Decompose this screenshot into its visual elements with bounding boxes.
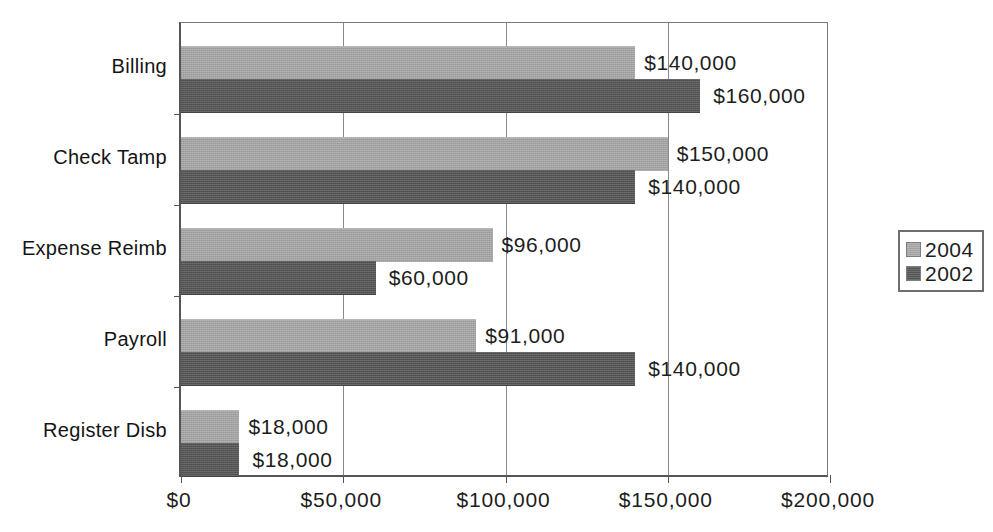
x-axis-tick xyxy=(830,475,831,483)
category-row: $150,000$140,000 xyxy=(181,114,827,205)
category-row: $140,000$160,000 xyxy=(181,23,827,114)
x-axis-tick xyxy=(343,475,344,483)
bar-payroll-2004: $91,000 xyxy=(181,319,476,352)
bar-expense-reimb-2002: $60,000 xyxy=(181,261,376,294)
legend-label-2002: 2002 xyxy=(925,263,974,284)
bar-value-label: $140,000 xyxy=(644,51,736,75)
bar-payroll-2002: $140,000 xyxy=(181,352,635,385)
bar-check-tamp-2002: $140,000 xyxy=(181,170,635,203)
legend-swatch-icon-2004 xyxy=(906,242,921,257)
bar-value-label: $18,000 xyxy=(252,448,332,472)
category-label-register-disb: Register Disb xyxy=(0,419,167,442)
legend-label-2004: 2004 xyxy=(925,239,974,260)
x-axis-tick-label: $200,000 xyxy=(781,488,875,512)
bar-value-label: $160,000 xyxy=(713,84,805,108)
category-row: $96,000$60,000 xyxy=(181,205,827,296)
bar-value-label: $140,000 xyxy=(648,175,740,199)
bar-register-disb-2002: $18,000 xyxy=(181,443,239,476)
category-row: $18,000$18,000 xyxy=(181,387,827,478)
bar-fill xyxy=(181,443,239,477)
bar-fill xyxy=(181,170,635,204)
bar-fill xyxy=(181,319,476,353)
x-axis-tick xyxy=(181,475,182,483)
x-axis-tick xyxy=(668,475,669,483)
bar-check-tamp-2004: $150,000 xyxy=(181,137,668,170)
bar-billing-2002: $160,000 xyxy=(181,79,700,112)
bar-billing-2004: $140,000 xyxy=(181,46,635,79)
legend-swatch-icon-2002 xyxy=(906,266,921,281)
bar-fill xyxy=(181,137,668,171)
bar-fill xyxy=(181,228,493,262)
category-label-billing: Billing xyxy=(0,55,167,78)
bar-value-label: $91,000 xyxy=(485,324,565,348)
bar-value-label: $18,000 xyxy=(248,415,328,439)
bar-fill xyxy=(181,261,376,295)
category-row: $91,000$140,000 xyxy=(181,296,827,387)
x-axis-tick-label: $150,000 xyxy=(619,488,713,512)
bar-value-label: $140,000 xyxy=(648,357,740,381)
plot-area: $140,000$160,000$150,000$140,000$96,000$… xyxy=(179,22,828,477)
bar-chart: $140,000$160,000$150,000$140,000$96,000$… xyxy=(0,0,993,532)
bar-fill xyxy=(181,410,239,444)
y-axis-tick xyxy=(174,296,181,297)
bar-fill xyxy=(181,352,635,386)
y-axis-tick xyxy=(174,114,181,115)
legend-item-series-0: 2004 xyxy=(906,237,974,261)
x-axis-tick xyxy=(506,475,507,483)
bar-fill xyxy=(181,46,635,80)
bar-value-label: $150,000 xyxy=(677,142,769,166)
category-label-check-tamp: Check Tamp xyxy=(0,146,167,169)
y-axis-tick xyxy=(174,387,181,388)
bar-expense-reimb-2004: $96,000 xyxy=(181,228,493,261)
x-axis-tick-label: $50,000 xyxy=(300,488,382,512)
bar-fill xyxy=(181,79,700,113)
bar-value-label: $60,000 xyxy=(389,266,469,290)
category-label-expense-reimb: Expense Reimb xyxy=(0,237,167,260)
category-label-payroll: Payroll xyxy=(0,328,167,351)
x-axis-tick-label: $0 xyxy=(167,488,192,512)
chart-legend: 2004 2002 xyxy=(898,230,984,292)
bar-value-label: $96,000 xyxy=(502,233,582,257)
x-axis-tick-label: $100,000 xyxy=(457,488,551,512)
legend-item-series-1: 2002 xyxy=(906,261,974,285)
y-axis-tick xyxy=(174,205,181,206)
bar-register-disb-2004: $18,000 xyxy=(181,410,239,443)
